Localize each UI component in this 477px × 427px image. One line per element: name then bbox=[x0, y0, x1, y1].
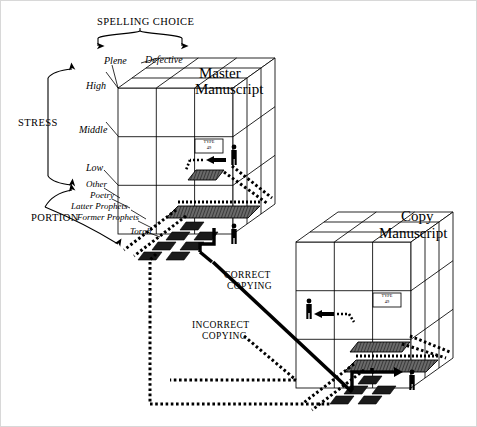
copy-type-label-line1: TYPE bbox=[375, 294, 399, 298]
axis-label-poetry: Poetry bbox=[90, 190, 114, 200]
axis-label-low: Low bbox=[86, 162, 103, 173]
incorrect-copying-label-line1: INCORRECT bbox=[192, 320, 249, 330]
master-type-label-line2: 49 bbox=[197, 146, 221, 150]
axis-label-other: Other bbox=[86, 179, 107, 189]
flow-incorrect-copying bbox=[150, 254, 156, 404]
master-manuscript-title-line1: Master bbox=[199, 66, 241, 82]
copy-upper-slab bbox=[350, 342, 410, 352]
copy-manuscript-title-line2: Manuscript bbox=[379, 226, 447, 242]
copy-manuscript-title-line1: Copy bbox=[401, 209, 434, 225]
flow-incorrect-copying-branch bbox=[170, 336, 296, 380]
correct-copying-label-line2: COPYING bbox=[227, 281, 272, 291]
master-manuscript-title-line2: Manuscript bbox=[195, 82, 263, 98]
axis-label-defective: Defective bbox=[145, 54, 183, 65]
axis-label-latter-prophets: Latter Prophets bbox=[71, 201, 127, 211]
master-type-label-line1: TYPE bbox=[197, 140, 221, 144]
master-scribe-figure-lower bbox=[231, 224, 236, 244]
spelling-choice-brace bbox=[98, 28, 182, 46]
axis-label-middle: Middle bbox=[79, 124, 107, 135]
spelling-choice-title: SPELLING CHOICE bbox=[97, 16, 194, 27]
correct-copying-label-line1: CORRECT bbox=[224, 270, 271, 280]
stress-title: STRESS bbox=[18, 117, 58, 128]
portion-title: PORTION bbox=[31, 212, 79, 223]
incorrect-copying-label-line2: COPYING bbox=[202, 331, 247, 341]
axis-label-torah: Torah bbox=[130, 226, 151, 236]
axis-label-plene: Plene bbox=[104, 55, 127, 66]
axis-label-former-prophets: Former Prophets bbox=[77, 212, 139, 222]
copy-type-label-line2: 49 bbox=[375, 300, 399, 304]
axis-label-high: High bbox=[86, 80, 106, 91]
figure-canvas: SPELLING CHOICE Plene Defective STRESS H… bbox=[0, 0, 477, 427]
